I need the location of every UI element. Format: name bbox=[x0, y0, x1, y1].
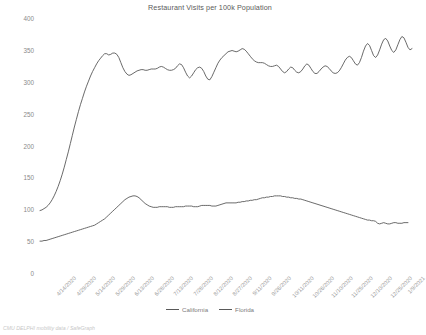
series-lines bbox=[40, 18, 412, 273]
plot-area bbox=[40, 18, 412, 273]
y-axis-tick-100: 100 bbox=[23, 206, 34, 213]
x-axis-tick-7: 7/28/2020 bbox=[192, 275, 214, 297]
x-axis-tick-11: 9/26/2020 bbox=[271, 275, 293, 297]
legend-item-california[interactable]: California bbox=[166, 306, 208, 313]
x-axis-tick-9: 8/27/2020 bbox=[231, 275, 253, 297]
x-axis-tick-4: 6/13/2020 bbox=[134, 275, 156, 297]
y-axis-tick-50: 50 bbox=[27, 238, 34, 245]
chart-legend: CaliforniaFlorida bbox=[0, 306, 420, 313]
y-axis-labels: 050100150200250300350400 bbox=[0, 18, 38, 273]
legend-label-florida: Florida bbox=[235, 306, 254, 313]
x-axis-tick-5: 6/28/2020 bbox=[153, 275, 175, 297]
legend-item-florida[interactable]: Florida bbox=[219, 306, 254, 313]
x-axis-tick-8: 8/12/2020 bbox=[212, 275, 234, 297]
y-axis-tick-150: 150 bbox=[23, 174, 34, 181]
y-axis-tick-300: 300 bbox=[23, 78, 34, 85]
line-florida bbox=[40, 196, 408, 241]
y-axis-tick-0: 0 bbox=[30, 270, 34, 277]
x-axis-tick-6: 7/13/2020 bbox=[173, 275, 195, 297]
y-axis-tick-350: 350 bbox=[23, 46, 34, 53]
line-california bbox=[40, 36, 412, 210]
x-axis-tick-3: 5/29/2020 bbox=[114, 275, 136, 297]
y-axis-tick-400: 400 bbox=[23, 15, 34, 22]
y-axis-tick-250: 250 bbox=[23, 110, 34, 117]
chart-title: Restaurant Visits per 100k Population bbox=[0, 3, 420, 12]
legend-swatch-florida bbox=[219, 309, 232, 311]
legend-label-california: California bbox=[182, 306, 208, 313]
legend-swatch-california bbox=[166, 309, 179, 311]
source-note: CMU DELPHI mobility data / SafeGraph bbox=[3, 325, 95, 331]
x-axis-tick-10: 9/11/2020 bbox=[251, 275, 273, 297]
x-axis-tick-2: 5/14/2020 bbox=[94, 275, 116, 297]
y-axis-tick-200: 200 bbox=[23, 142, 34, 149]
x-axis-tick-1: 4/29/2020 bbox=[75, 275, 97, 297]
x-axis-tick-0: 4/14/2020 bbox=[55, 275, 77, 297]
